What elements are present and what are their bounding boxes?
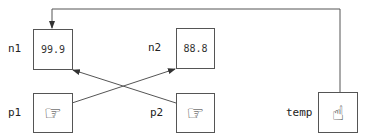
n2-label: n2 [148,41,161,54]
p1-label: p1 [8,106,21,119]
pointing-up-hand-icon: ☝ [332,103,344,123]
temp-label: temp [286,106,313,119]
n1-box: 99.9 [33,29,73,70]
p1-box: ☞ [33,93,73,133]
temp-box: ☝ [318,92,358,133]
n1-label: n1 [8,42,21,55]
n1-value: 99.9 [41,44,65,55]
pointing-right-hand-icon: ☞ [44,103,62,123]
n2-box: 88.8 [176,28,215,69]
pointer-swap-diagram: n1 99.9 n2 88.8 p1 ☞ p2 ☞ temp ☝ [0,0,365,139]
pointing-right-hand-icon: ☞ [187,103,205,123]
p2-label: p2 [150,106,163,119]
n2-value: 88.8 [183,43,207,54]
p2-box: ☞ [176,93,215,133]
